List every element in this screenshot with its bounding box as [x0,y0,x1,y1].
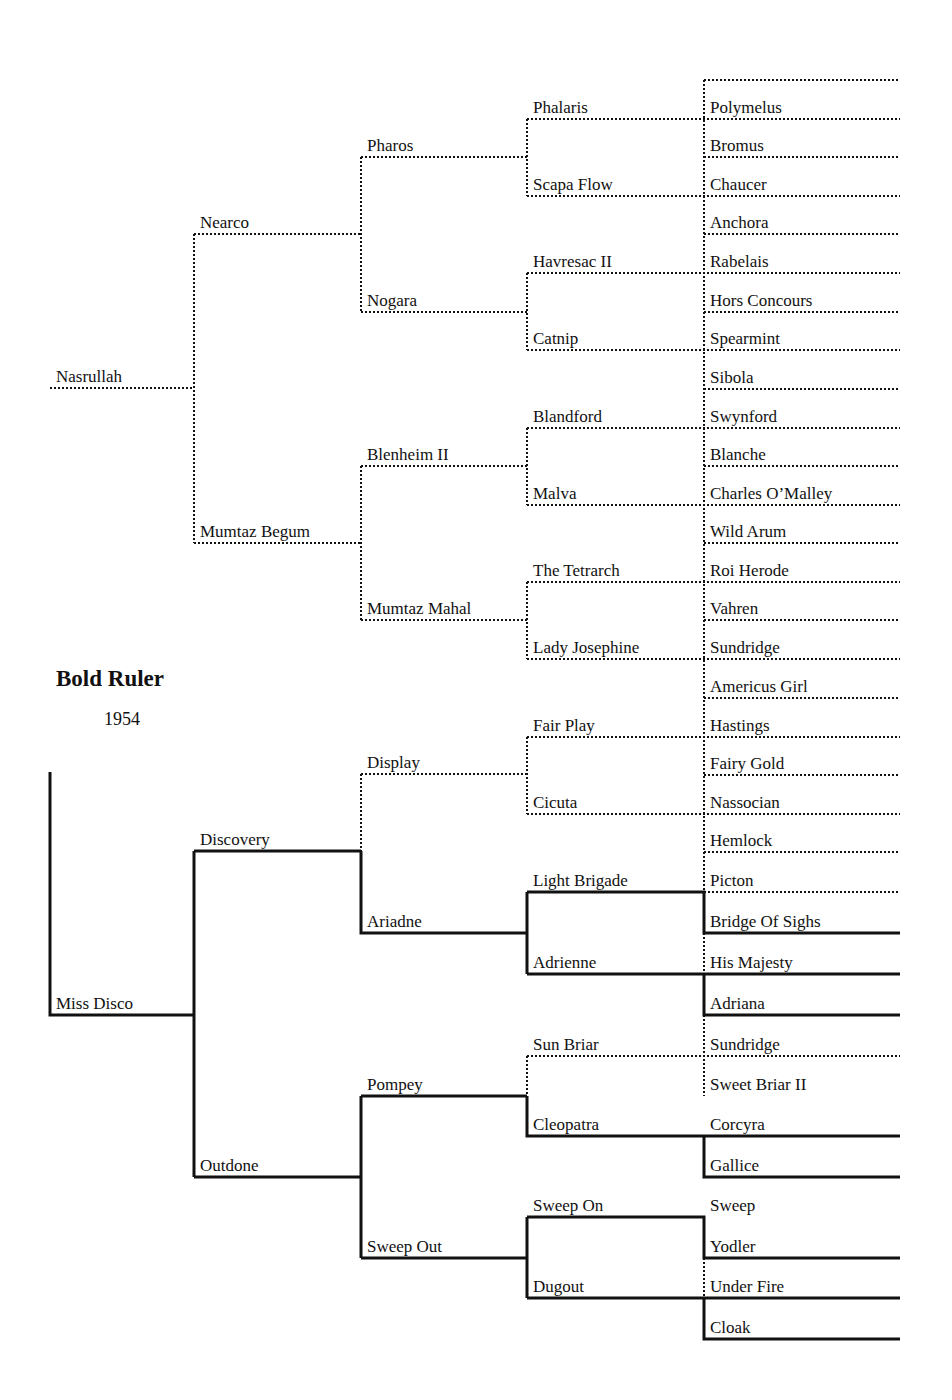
horse-name-dugout: Dugout [533,1278,584,1296]
horse-title: Bold Ruler [56,666,164,692]
horse-name-nearco: Nearco [200,214,249,232]
horse-name-outdone: Outdone [200,1157,259,1175]
horse-name-polymelus: Polymelus [710,99,782,117]
horse-name-hors-concours: Hors Concours [710,292,812,310]
horse-name-lady-josephine: Lady Josephine [533,639,639,657]
horse-name-hastings: Hastings [710,717,770,735]
foaling-year: 1954 [104,709,140,730]
horse-name-wild-arum: Wild Arum [710,523,786,541]
horse-name-mumtaz-begum: Mumtaz Begum [200,523,310,541]
horse-name-yodler: Yodler [710,1238,756,1256]
horse-name-catnip: Catnip [533,330,578,348]
horse-name-sweep: Sweep [710,1197,755,1215]
horse-name-phalaris: Phalaris [533,99,588,117]
horse-name-rabelais: Rabelais [710,253,769,271]
horse-name-hemlock: Hemlock [710,832,772,850]
horse-name-sibola: Sibola [710,369,753,387]
horse-name-gallice: Gallice [710,1157,759,1175]
horse-name-anchora: Anchora [710,214,769,232]
horse-name-fairy-gold: Fairy Gold [710,755,784,773]
pedigree-lines [0,0,952,1400]
horse-name-adrienne: Adrienne [533,954,596,972]
horse-name-sweep-out: Sweep Out [367,1238,442,1256]
horse-name-light-brigade: Light Brigade [533,872,628,890]
horse-name-adriana: Adriana [710,995,765,1013]
horse-name-cleopatra: Cleopatra [533,1116,599,1134]
horse-name-swynford: Swynford [710,408,777,426]
horse-name-under-fire: Under Fire [710,1278,784,1296]
horse-name-sweet-briar-ii: Sweet Briar II [710,1076,806,1094]
horse-name-sweep-on: Sweep On [533,1197,603,1215]
horse-name-mumtaz-mahal: Mumtaz Mahal [367,600,471,618]
horse-name-ariadne: Ariadne [367,913,422,931]
horse-name-sundridge-1: Sundridge [710,639,780,657]
horse-name-blandford: Blandford [533,408,602,426]
horse-name-miss-disco: Miss Disco [56,995,133,1013]
horse-name-display: Display [367,754,420,772]
horse-name-sun-briar: Sun Briar [533,1036,599,1054]
horse-name-sundridge-2: Sundridge [710,1036,780,1054]
horse-name-blenheim-ii: Blenheim II [367,446,449,464]
horse-name-chaucer: Chaucer [710,176,767,194]
horse-name-roi-herode: Roi Herode [710,562,789,580]
horse-name-malva: Malva [533,485,576,503]
horse-name-picton: Picton [710,872,753,890]
horse-name-nassocian: Nassocian [710,794,780,812]
horse-name-pompey: Pompey [367,1076,423,1094]
horse-name-havresac-ii: Havresac II [533,253,612,271]
horse-name-charles-omalley: Charles O’Malley [710,485,832,503]
solid-connector [50,772,194,1015]
horse-name-fair-play: Fair Play [533,717,595,735]
horse-name-bromus: Bromus [710,137,764,155]
horse-name-nogara: Nogara [367,292,417,310]
horse-name-his-majesty: His Majesty [710,954,793,972]
horse-name-discovery: Discovery [200,831,270,849]
horse-name-vahren: Vahren [710,600,758,618]
horse-name-bridge-of-sighs: Bridge Of Sighs [710,913,821,931]
horse-name-cloak: Cloak [710,1319,751,1337]
horse-name-pharos: Pharos [367,137,413,155]
horse-name-corcyra: Corcyra [710,1116,765,1134]
horse-name-the-tetrarch: The Tetrarch [533,562,620,580]
horse-name-americus-girl: Americus Girl [710,678,808,696]
horse-name-spearmint: Spearmint [710,330,780,348]
horse-name-blanche: Blanche [710,446,766,464]
horse-name-nasrullah: Nasrullah [56,368,122,386]
horse-name-cicuta: Cicuta [533,794,577,812]
horse-name-scapa-flow: Scapa Flow [533,176,613,194]
